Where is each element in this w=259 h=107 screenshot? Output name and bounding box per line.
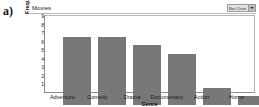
y-axis-title: Frequency of Genre — [24, 0, 31, 16]
chart-type-dropdown[interactable]: Bar Chart — [227, 4, 256, 12]
x-axis-tick-label: Action — [184, 94, 219, 101]
x-axis-tick-label: Drama — [115, 94, 150, 101]
figure-panel: a) Movies Bar Chart Frequency of Genre 1… — [0, 0, 259, 107]
chart-type-value: Bar Chart — [228, 6, 248, 11]
plot-area — [44, 15, 255, 93]
x-axis-tick-label: Comedy — [80, 94, 115, 101]
chart-title: Movies — [32, 4, 51, 12]
panel-label: a) — [3, 5, 13, 17]
chevron-down-icon[interactable] — [248, 5, 255, 11]
x-axis-tick-label: Adventure — [45, 94, 80, 101]
x-axis-tick-label: Horror — [219, 94, 254, 101]
y-axis-tick-labels: 123456789 — [36, 15, 44, 93]
chart-window: Movies Bar Chart Frequency of Genre 1234… — [30, 4, 256, 103]
x-axis-tick-label: Documentary — [150, 94, 185, 101]
chart-titlebar: Movies Bar Chart — [30, 4, 256, 15]
titlebar-divider — [30, 13, 256, 14]
x-axis-title: Genre — [45, 101, 254, 107]
